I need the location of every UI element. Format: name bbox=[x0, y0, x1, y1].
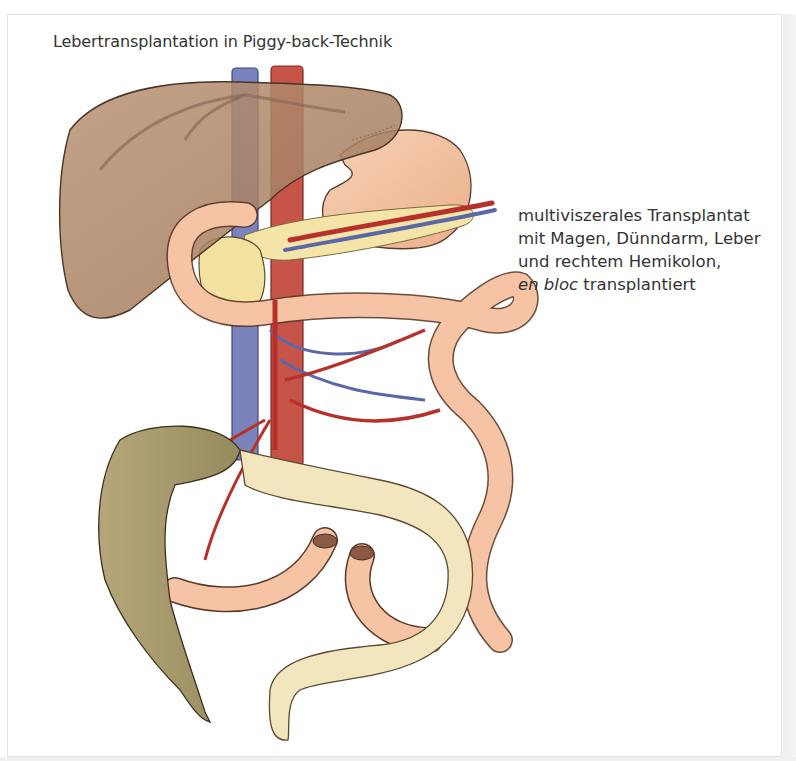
figure-caption: multiviszerales Transplantat mit Magen, … bbox=[518, 204, 760, 296]
caption-line-1: multiviszerales Transplantat bbox=[518, 204, 760, 227]
intestine-cut-ends bbox=[175, 534, 430, 640]
caption-line-3: und rechtem Hemikolon, bbox=[518, 250, 760, 273]
anatomy-illustration bbox=[0, 0, 796, 761]
caption-line-4: en bloc transplantiert bbox=[518, 273, 760, 296]
caption-line-4-rest: transplantiert bbox=[578, 275, 696, 294]
native-colon bbox=[99, 426, 240, 722]
caption-line-2: mit Magen, Dünndarm, Leber bbox=[518, 227, 760, 250]
caption-italic-en-bloc: en bloc bbox=[518, 275, 578, 294]
figure-title: Lebertransplantation in Piggy-back-Techn… bbox=[53, 32, 392, 51]
